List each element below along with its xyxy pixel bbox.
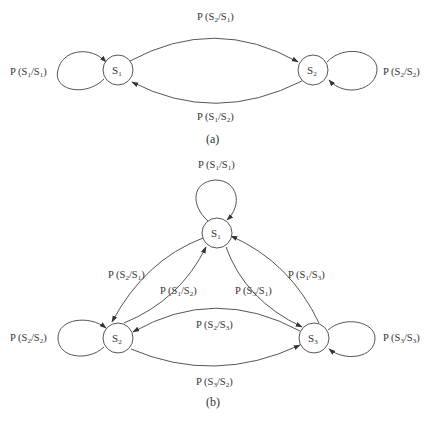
label-b-p-s3-s2: P (S3/S2) — [196, 376, 233, 389]
edge-b-s2-to-s3 — [131, 345, 300, 366]
label-a-p-s1-s1: P (S1/S1) — [10, 66, 47, 79]
edge-a-s2-to-s1 — [132, 81, 302, 103]
label-a-p-s1-s2: P (S1/S2) — [197, 111, 234, 124]
diagram-a: S1 S2 P (S2/S1) P (S1/S1) P (S2/S2) P (S… — [10, 11, 420, 146]
edge-a-s1-self-loop — [57, 52, 106, 90]
label-b-p-s2-s2: P (S2/S2) — [10, 332, 47, 345]
edge-a-s1-to-s2 — [130, 38, 298, 62]
label-b-p-s3-s1: P (S3/S1) — [235, 285, 272, 298]
edge-a-s2-self-loop — [327, 51, 377, 90]
label-a-p-s2-s2: P (S2/S2) — [383, 66, 420, 79]
label-b-p-s2-s3: P (S2/S3) — [196, 319, 233, 332]
edge-b-s3-self-loop — [328, 322, 375, 357]
caption-a: (a) — [206, 132, 219, 146]
markov-chain-figure: S1 S2 P (S2/S1) P (S1/S1) P (S2/S2) P (S… — [0, 0, 433, 424]
label-b-p-s1-s3: P (S1/S3) — [288, 269, 325, 282]
label-b-p-s1-s1: P (S1/S1) — [198, 159, 235, 172]
label-a-p-s2-s1: P (S2/S1) — [197, 11, 234, 24]
label-b-p-s2-s1: P (S2/S1) — [108, 269, 145, 282]
edge-b-s2-self-loop — [58, 320, 106, 356]
label-b-p-s3-s3: P (S3/S3) — [383, 332, 420, 345]
caption-b: (b) — [206, 395, 220, 409]
edge-b-s1-self-loop — [196, 180, 236, 221]
diagram-b: S1 S2 S3 P (S1/S1) P (S2/S1) P (S1/S2) P… — [10, 159, 420, 409]
